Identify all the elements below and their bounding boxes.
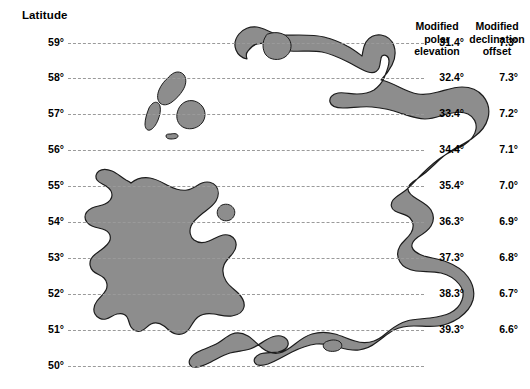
gridline [68,222,424,223]
latitude-tick-label: 58° [0,71,64,83]
ireland-landmass [85,170,244,335]
latitude-tick-label: 52° [0,287,64,299]
declination-offset-value: 7.3° [470,71,518,83]
polar-elevation-value: 36.3° [414,215,464,227]
declination-offset-value: 6.6° [470,323,518,335]
latitude-tick-label: 54° [0,215,64,227]
gridline [68,366,424,367]
latitude-tick-label: 59° [0,36,64,48]
declination-offset-value: 6.8° [470,251,518,263]
latitude-tick-label: 51° [0,323,64,335]
header-decl-line-1: Modified [468,20,526,33]
declination-offset-value: 6.9° [470,215,518,227]
declination-offset-value: 7.2° [470,107,518,119]
gridline [68,150,424,151]
small-hebridean-island [166,134,178,139]
gridline [68,294,424,295]
polar-elevation-value: 37.3° [414,251,464,263]
latitude-tick-label: 55° [0,179,64,191]
gridline [68,78,424,79]
gridline [68,114,424,115]
declination-offset-value: 7.1° [470,143,518,155]
latitude-map-figure: Latitude Modified polar elevation Mod [0,0,530,389]
lewis-harris-island [158,72,186,105]
declination-offset-value: 6.7° [470,287,518,299]
polar-elevation-value: 33.4° [414,107,464,119]
page-title: Latitude [22,9,68,21]
polar-elevation-value: 31.4° [414,36,464,48]
latitude-tick-label: 53° [0,251,64,263]
polar-elevation-value: 38.3° [414,287,464,299]
gridline [68,43,424,44]
gridline [68,258,424,259]
latitude-tick-label: 50° [0,359,64,371]
orkney-island [263,33,291,60]
gridline [68,186,424,187]
polar-elevation-value: 39.3° [414,323,464,335]
polar-elevation-value: 32.4° [414,71,464,83]
declination-offset-value: 7.3° [470,36,518,48]
isle-of-wight [323,340,342,351]
uist-island [145,102,160,130]
latitude-tick-label: 56° [0,143,64,155]
header-elev-line-1: Modified [408,20,466,33]
polar-elevation-value: 34.4° [414,143,464,155]
isle-of-man [217,204,235,221]
polar-elevation-value: 35.4° [414,179,464,191]
gridline [68,330,424,331]
latitude-tick-label: 57° [0,107,64,119]
declination-offset-value: 7.0° [470,179,518,191]
